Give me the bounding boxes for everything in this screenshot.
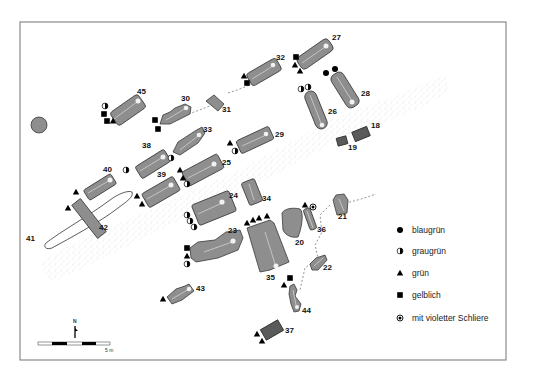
grave-40: 40 xyxy=(73,165,117,201)
grave-30: 30 xyxy=(152,94,191,132)
dashed-line-21 xyxy=(345,194,376,203)
excavation-plan: 41 42 40 38 39 45 xyxy=(0,0,558,380)
grave-29: 29 xyxy=(227,126,285,154)
grave-44: 44 xyxy=(281,275,312,315)
legend-item-gelblich: gelblich xyxy=(397,290,441,300)
grave-label: 25 xyxy=(222,158,231,167)
grave-label: 19 xyxy=(348,143,357,152)
grave-label: 26 xyxy=(328,107,337,116)
grave-32: 32 xyxy=(241,53,286,87)
grave-23: 23 xyxy=(184,226,243,267)
legend-item-graugruen: graugrün xyxy=(397,246,446,256)
legend-label: grün xyxy=(412,268,429,278)
grave-20: 20 xyxy=(282,208,304,247)
grave-22: 22 xyxy=(310,255,332,272)
legend-item-blaugruen: blaugrün xyxy=(397,225,445,235)
grave-label: 23 xyxy=(228,226,237,235)
legend-label: blaugrün xyxy=(412,225,445,235)
scale-label: 5 m xyxy=(105,347,113,353)
triangle-filled-icon xyxy=(397,270,403,276)
grave-label: 21 xyxy=(338,212,347,221)
grave-label: 22 xyxy=(323,263,332,272)
legend-label: graugrün xyxy=(412,246,446,256)
grave-43: 43 xyxy=(160,284,206,304)
legend: blaugrün graugrün grün gelblich mit viol… xyxy=(397,225,489,323)
grave-label: 45 xyxy=(137,87,146,96)
grave-label: 38 xyxy=(142,141,151,150)
grave-label: 32 xyxy=(276,53,285,62)
square-filled-icon xyxy=(397,292,403,298)
grave-label: 36 xyxy=(317,225,326,234)
grave-label: 18 xyxy=(371,121,380,130)
grave-label: 31 xyxy=(222,105,231,114)
grave-label: 34 xyxy=(262,194,271,203)
circle-half-icon xyxy=(397,248,403,254)
grave-label: 28 xyxy=(361,89,370,98)
svg-text:N: N xyxy=(73,318,77,324)
grave-label: 24 xyxy=(229,191,238,200)
scale-bar: 5 m xyxy=(38,342,113,353)
grave-label: 20 xyxy=(295,238,304,247)
grave-label: 39 xyxy=(157,170,166,179)
grave-label: 40 xyxy=(103,165,112,174)
grave-label: 37 xyxy=(285,326,294,335)
grave-label: 35 xyxy=(266,273,275,282)
legend-label: mit violetter Schliere xyxy=(412,313,489,323)
grave-label: 29 xyxy=(275,130,284,139)
grave-label: 43 xyxy=(196,284,205,293)
grave-45: 45 xyxy=(101,87,146,126)
north-arrow-icon: N xyxy=(73,318,78,338)
grave-36: 36 xyxy=(302,202,327,234)
grave-21: 21 xyxy=(333,194,348,221)
grave-label: 44 xyxy=(302,306,311,315)
circle-dot-icon xyxy=(397,315,403,321)
grave-28: 28 xyxy=(323,66,370,110)
grave-33: 33 xyxy=(168,125,212,161)
grave-label: 30 xyxy=(181,94,190,103)
dashed-line-36-44 xyxy=(300,205,330,290)
grave-label: 41 xyxy=(26,234,35,243)
legend-item-gruen: grün xyxy=(397,268,429,278)
grave-31: 31 xyxy=(206,95,231,114)
round-pit xyxy=(31,117,47,133)
grave-label: 42 xyxy=(99,223,108,232)
grave-37: 37 xyxy=(254,320,295,344)
grave-label: 33 xyxy=(203,125,212,134)
grave-label: 27 xyxy=(332,33,341,42)
stippled-band xyxy=(40,75,450,282)
legend-label: gelblich xyxy=(412,290,441,300)
circle-filled-icon xyxy=(397,227,403,233)
legend-item-violett: mit violetter Schliere xyxy=(397,313,489,323)
